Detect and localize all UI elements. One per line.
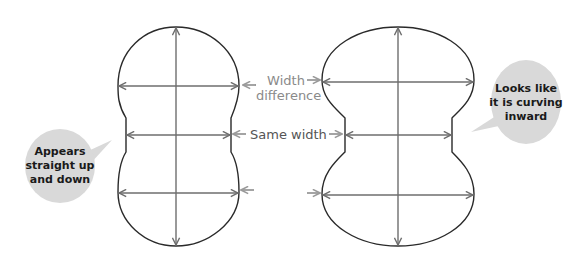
left-callout-line-1: Appears <box>25 145 95 159</box>
right-callout-line-1: Looks like <box>488 82 564 96</box>
right-callout-text: Looks like it is curving inward <box>488 82 564 124</box>
right-callout-line-2: it is curving <box>488 96 564 110</box>
left-callout-line-3: and down <box>25 173 95 187</box>
left-callout-line-2: straight up <box>25 159 95 173</box>
left-shape-outline <box>118 27 239 246</box>
left-callout-text: Appears straight up and down <box>25 145 95 187</box>
width-difference-line2: difference <box>256 88 316 103</box>
left-shape <box>118 27 239 246</box>
width-difference-label: Width difference <box>256 73 316 103</box>
width-difference-line1: Width <box>256 73 316 88</box>
right-shape <box>322 27 474 246</box>
right-callout-line-3: inward <box>488 110 564 124</box>
same-width-label: Same width <box>250 127 326 142</box>
